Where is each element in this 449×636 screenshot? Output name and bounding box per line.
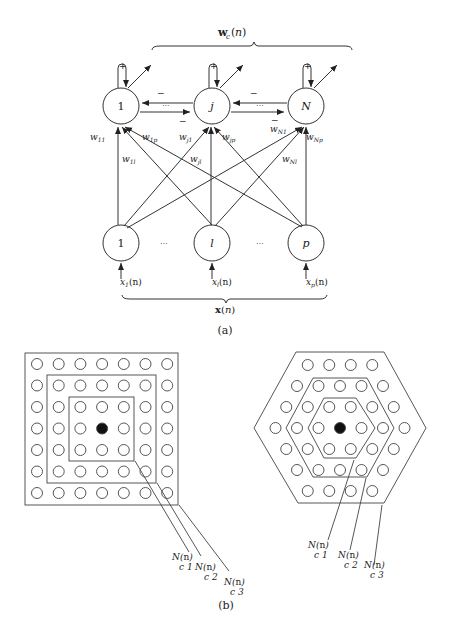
kohonen-network-figure: w c ( n ) + + + 1 j N − ··· − − ··· − w1… — [0, 0, 449, 636]
svg-text:xp(n): xp(n) — [306, 277, 328, 289]
svg-text:···: ··· — [160, 239, 168, 248]
neuron — [270, 423, 281, 434]
svg-text:wjp: wjp — [222, 132, 236, 144]
neuron — [313, 423, 324, 434]
svg-text:N(n): N(n) — [194, 562, 216, 572]
neuron — [32, 445, 43, 456]
svg-text:j: j — [207, 100, 214, 113]
neuron — [53, 380, 64, 391]
svg-text:c: c — [226, 33, 230, 41]
svg-text:1: 1 — [118, 100, 125, 113]
svg-text:x(n): x(n) — [215, 304, 235, 315]
neuron — [313, 465, 324, 476]
neuron — [388, 444, 399, 455]
neuron — [302, 486, 313, 497]
svg-text:N(n): N(n) — [171, 552, 193, 562]
neuron — [345, 486, 356, 497]
svg-text:+: + — [210, 61, 218, 71]
neuron — [118, 488, 129, 499]
caption-a: (a) — [217, 324, 232, 337]
neuron — [75, 359, 86, 370]
neuron — [118, 423, 129, 434]
svg-text:wj1: wj1 — [179, 132, 192, 144]
neuron — [118, 466, 129, 477]
top-brace — [152, 42, 352, 50]
figure-a — [103, 42, 352, 303]
neuron — [97, 359, 108, 370]
neuron — [118, 380, 129, 391]
neuron — [97, 445, 108, 456]
neuron — [32, 466, 43, 477]
neuron — [97, 466, 108, 477]
svg-text:xl(n): xl(n) — [212, 277, 232, 288]
neuron — [281, 444, 292, 455]
neuron — [367, 402, 378, 413]
neuron — [324, 402, 335, 413]
neuron — [356, 423, 367, 434]
neuron — [32, 402, 43, 413]
neuron — [162, 466, 173, 477]
svg-text:N(n): N(n) — [223, 577, 245, 587]
svg-text:): ) — [242, 26, 246, 39]
svg-text:c 3: c 3 — [370, 570, 384, 580]
neuron — [378, 381, 389, 392]
neuron — [345, 360, 356, 371]
neuron — [75, 423, 86, 434]
square-labels: N(n) c 1 N(n) c 2 N(n) c 3 — [171, 552, 245, 597]
neuron — [118, 402, 129, 413]
svg-text:−: − — [157, 88, 165, 98]
neuron — [324, 360, 335, 371]
neuron — [53, 466, 64, 477]
svg-text:−: − — [250, 88, 258, 98]
neuron — [32, 423, 43, 434]
hex-labels: N(n) c 1 N(n) c 2 N(n) c 3 — [307, 540, 385, 580]
neuron — [75, 488, 86, 499]
svg-text:wN1: wN1 — [270, 124, 287, 135]
hex-grid — [254, 352, 426, 565]
svg-text:···: ··· — [256, 101, 264, 110]
neuron — [281, 402, 292, 413]
neuron — [75, 380, 86, 391]
winner-neuron — [97, 423, 108, 434]
neuron — [367, 486, 378, 497]
neuron — [97, 380, 108, 391]
neuron — [118, 445, 129, 456]
neuron — [292, 465, 303, 476]
svg-text:+: + — [119, 61, 127, 71]
svg-text:N: N — [300, 100, 311, 113]
neuron — [335, 381, 346, 392]
svg-text:1: 1 — [118, 237, 125, 250]
svg-text:w1l: w1l — [122, 154, 136, 165]
neuron — [162, 402, 173, 413]
neuron — [53, 402, 64, 413]
neuron — [345, 402, 356, 413]
neuron — [302, 444, 313, 455]
svg-text:c 1: c 1 — [314, 550, 328, 560]
svg-text:c 3: c 3 — [230, 587, 244, 597]
neuron — [32, 380, 43, 391]
neuron — [162, 359, 173, 370]
neuron — [162, 423, 173, 434]
neuron — [162, 380, 173, 391]
svg-text:w1p: w1p — [142, 132, 158, 144]
neuron — [75, 466, 86, 477]
neuron — [324, 486, 335, 497]
neuron — [53, 359, 64, 370]
neuron — [399, 423, 410, 434]
neuron — [53, 445, 64, 456]
svg-text:N(n): N(n) — [363, 560, 385, 570]
neuron — [75, 402, 86, 413]
neuron — [140, 445, 151, 456]
neuron — [140, 359, 151, 370]
winner-neuron — [335, 423, 346, 434]
svg-text:N(n): N(n) — [307, 540, 329, 550]
neuron — [378, 465, 389, 476]
neuron — [118, 359, 129, 370]
neuron — [140, 488, 151, 499]
svg-text:p: p — [302, 237, 309, 250]
neuron — [356, 465, 367, 476]
svg-text:N(n): N(n) — [337, 550, 359, 560]
neuron — [367, 360, 378, 371]
neuron — [32, 488, 43, 499]
neuron — [356, 381, 367, 392]
